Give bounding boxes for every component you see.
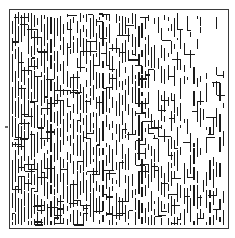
line-texture-figure: [0, 0, 235, 238]
figure-root: A square bordered panel filled with thou…: [0, 0, 235, 238]
scan-artifact-speck: [5, 126, 8, 128]
